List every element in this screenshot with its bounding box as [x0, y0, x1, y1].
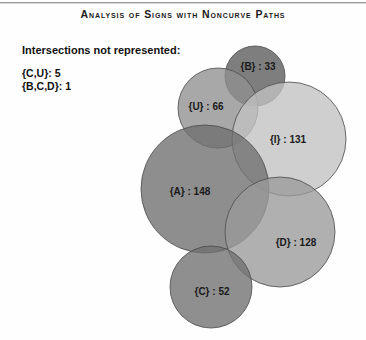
diagram-page: Analysis of Signs with Noncurve Paths In… — [0, 0, 366, 340]
venn-diagram — [0, 0, 366, 340]
venn-circle-group — [141, 46, 346, 328]
venn-circle-c — [170, 246, 252, 328]
